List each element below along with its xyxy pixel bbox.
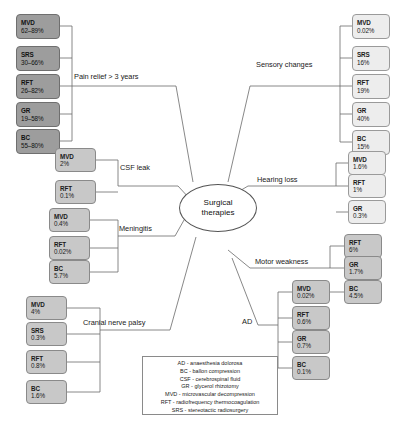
- node-code: RFT: [357, 79, 389, 86]
- diagram-canvas: Surgical therapies Pain relief > 3 years…: [0, 0, 396, 424]
- branch-label-pain-relief: Pain relief > 3 years: [74, 72, 138, 81]
- node-value: 0.4%: [54, 220, 89, 227]
- node-sensory-changes-srs: SRS 16%: [352, 46, 390, 71]
- branch-label-hearing-loss: Hearing loss: [257, 175, 297, 184]
- node-ad-gr: GR 0.7%: [292, 330, 330, 354]
- node-value: 55–80%: [21, 142, 59, 149]
- legend-line-gr: GR - glycerol rhizotomy: [148, 383, 272, 391]
- legend-line-csf: CSF - cerebrospinal fluid: [148, 376, 272, 384]
- node-ad-mvd: MVD 0.02%: [292, 280, 330, 304]
- node-code: BC: [357, 135, 389, 142]
- node-code: RFT: [54, 241, 89, 248]
- node-meningitis-mvd: MVD 0.4%: [49, 208, 90, 232]
- node-hearing-loss-mvd: MVD 1.6%: [348, 151, 386, 175]
- branch-label-meningitis: Meningitis: [119, 224, 152, 233]
- node-value: 40%: [357, 115, 389, 122]
- abbreviation-legend: AD - anaesthesia dolorosa BC - ballon co…: [142, 356, 278, 415]
- node-value: 0.3%: [353, 212, 385, 219]
- node-value: 19–58%: [21, 115, 59, 122]
- legend-line-rft: RFT - radiofrequency thermocoagulation: [148, 399, 272, 407]
- node-sensory-changes-mvd: MVD 0.02%: [352, 14, 390, 39]
- branch-label-ad: AD: [242, 317, 252, 326]
- node-code: MVD: [60, 153, 95, 160]
- legend-line-bc: BC - ballon compression: [148, 368, 272, 376]
- node-value: 2%: [60, 160, 95, 167]
- node-code: MVD: [31, 301, 66, 308]
- node-motor-weakness-bc: BC 4.5%: [344, 280, 382, 304]
- node-code: RFT: [353, 179, 385, 186]
- node-motor-weakness-rft: RFT 6%: [344, 234, 382, 258]
- node-code: RFT: [297, 311, 329, 318]
- node-pain-relief-gr: GR 19–58%: [16, 102, 60, 127]
- node-hearing-loss-gr: GR 0.3%: [348, 200, 386, 224]
- node-value: 0.3%: [31, 334, 66, 341]
- node-code: SRS: [21, 51, 59, 58]
- node-value: 0.1%: [297, 368, 329, 375]
- node-code: GR: [353, 205, 385, 212]
- node-value: 0.8%: [31, 362, 66, 369]
- node-code: MVD: [357, 19, 389, 26]
- node-code: BC: [31, 385, 66, 392]
- node-code: GR: [297, 335, 329, 342]
- node-code: MVD: [54, 213, 89, 220]
- node-cranial-nerve-palsy-bc: BC 1.6%: [26, 380, 67, 404]
- legend-line-mvd: MVD - microvascular decompression: [148, 391, 272, 399]
- node-value: 30–66%: [21, 59, 59, 66]
- node-value: 0.1%: [60, 192, 95, 199]
- branch-label-csf-leak: CSF leak: [120, 163, 150, 172]
- node-value: 6%: [349, 246, 381, 253]
- node-hearing-loss-rft: RFT 1%: [348, 174, 386, 198]
- node-code: MVD: [21, 19, 59, 26]
- node-ad-bc: BC 0.1%: [292, 356, 330, 380]
- branch-label-cranial-nerve-palsy: Cranial nerve palsy: [83, 318, 145, 327]
- node-value: 4%: [31, 308, 66, 315]
- node-code: BC: [349, 285, 381, 292]
- branch-label-motor-weakness: Motor weakness: [255, 257, 308, 266]
- node-pain-relief-mvd: MVD 62–89%: [16, 14, 60, 39]
- center-node-line1: Surgical: [204, 198, 233, 208]
- node-value: 4.5%: [349, 292, 381, 299]
- node-csf-leak-rft: RFT 0.1%: [55, 180, 96, 204]
- node-value: 1.7%: [349, 268, 381, 275]
- node-code: GR: [21, 107, 59, 114]
- node-meningitis-bc: BC 5.7%: [49, 260, 90, 284]
- node-code: GR: [349, 261, 381, 268]
- node-pain-relief-rft: RFT 26–82%: [16, 74, 60, 99]
- node-pain-relief-bc: BC 55–80%: [16, 129, 60, 154]
- node-value: 62–89%: [21, 27, 59, 34]
- node-code: MVD: [353, 156, 385, 163]
- node-pain-relief-srs: SRS 30–66%: [16, 46, 60, 71]
- node-code: GR: [357, 107, 389, 114]
- node-code: SRS: [357, 51, 389, 58]
- node-value: 15%: [357, 143, 389, 150]
- node-value: 16%: [357, 59, 389, 66]
- node-code: BC: [297, 361, 329, 368]
- node-value: 19%: [357, 87, 389, 94]
- node-cranial-nerve-palsy-rft: RFT 0.8%: [26, 350, 67, 374]
- node-code: RFT: [349, 239, 381, 246]
- node-value: 26–82%: [21, 87, 59, 94]
- node-sensory-changes-gr: GR 40%: [352, 102, 390, 127]
- node-code: RFT: [21, 79, 59, 86]
- node-code: RFT: [31, 355, 66, 362]
- node-code: RFT: [60, 185, 95, 192]
- node-code: MVD: [297, 285, 329, 292]
- branch-label-sensory-changes: Sensory changes: [256, 60, 312, 69]
- node-value: 0.7%: [297, 342, 329, 349]
- node-meningitis-rft: RFT 0.02%: [49, 236, 90, 260]
- node-code: SRS: [31, 327, 66, 334]
- node-cranial-nerve-palsy-mvd: MVD 4%: [26, 296, 67, 320]
- legend-line-ad: AD - anaesthesia dolorosa: [148, 360, 272, 368]
- center-node-surgical-therapies: Surgical therapies: [179, 184, 257, 232]
- node-value: 1.6%: [353, 163, 385, 170]
- node-value: 1.6%: [31, 392, 66, 399]
- node-value: 0.6%: [297, 318, 329, 325]
- node-code: BC: [21, 134, 59, 141]
- node-cranial-nerve-palsy-srs: SRS 0.3%: [26, 322, 67, 346]
- center-node-line2: therapies: [202, 208, 235, 218]
- node-value: 5.7%: [54, 272, 89, 279]
- node-sensory-changes-rft: RFT 19%: [352, 74, 390, 99]
- node-value: 0.02%: [297, 292, 329, 299]
- node-csf-leak-mvd: MVD 2%: [55, 148, 96, 172]
- node-value: 0.02%: [357, 27, 389, 34]
